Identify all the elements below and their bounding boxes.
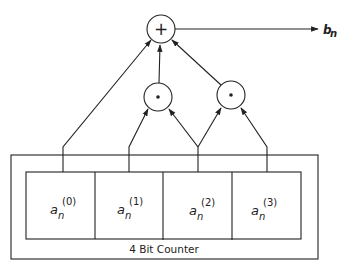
svg-text:a: a (117, 202, 125, 217)
wire-a0-to-adder (63, 40, 151, 172)
svg-text:n: n (259, 211, 265, 222)
cell-label-3: a n (3) (251, 197, 277, 222)
svg-text:(2): (2) (201, 197, 215, 208)
counter-title: 4 Bit Counter (129, 243, 199, 255)
cell-label-1: a n (1) (117, 196, 143, 221)
svg-text:n: n (125, 210, 131, 221)
svg-text:a: a (251, 203, 259, 218)
svg-text:a: a (50, 202, 58, 217)
svg-text:(0): (0) (62, 196, 76, 207)
svg-text:a: a (189, 203, 197, 218)
svg-text:n: n (197, 211, 203, 222)
svg-text:(1): (1) (129, 196, 143, 207)
svg-text:n: n (330, 28, 337, 39)
wire-a3-to-and2 (241, 108, 267, 172)
cell-label-2: a n (2) (189, 197, 215, 222)
svg-text:n: n (58, 210, 64, 221)
cell-label-0: a n (0) (50, 196, 76, 221)
and-node-1 (144, 83, 172, 111)
wire-and1-to-adder (159, 45, 160, 83)
wire-and2-to-adder (172, 40, 221, 85)
output-label: b n (323, 23, 337, 39)
adder-node: + (147, 15, 175, 43)
wire-a2-to-and1 (169, 109, 198, 172)
counter-diagram: a n (0) a n (1) a n (2) a n (3) 4 Bit Co… (0, 0, 345, 274)
wire-a1-to-and1 (129, 109, 148, 172)
and-node-2 (217, 81, 245, 109)
svg-text:(3): (3) (263, 197, 277, 208)
plus-icon: + (154, 19, 168, 39)
wire-a2-to-and2 (198, 108, 221, 147)
dot-icon (229, 93, 233, 97)
dot-icon (156, 95, 160, 99)
